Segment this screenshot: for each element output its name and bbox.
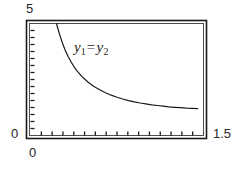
plot-frame-inner-border [30,24,204,136]
graph-figure: 5 0 0 1.5 y1=y2 [0,0,244,174]
plot-canvas [0,0,244,174]
x-axis-tick-marks [41,132,192,136]
y-axis-tick-marks [31,31,35,129]
plot-frame-outer-border [27,21,207,139]
data-curve-y1-equals-y2 [56,24,197,109]
plot-frame [27,21,207,139]
